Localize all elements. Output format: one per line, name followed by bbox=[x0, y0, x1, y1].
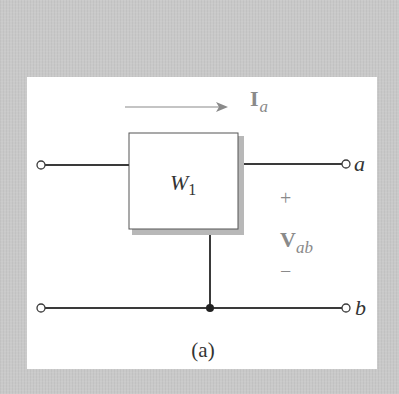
terminal-input-top bbox=[37, 161, 45, 169]
figure-caption: (a) bbox=[191, 338, 214, 362]
terminal-b bbox=[342, 304, 350, 312]
voltage-plus: + bbox=[280, 187, 291, 209]
terminal-input-bottom bbox=[37, 304, 45, 312]
terminal-a-label: a bbox=[354, 151, 365, 176]
voltage-minus: − bbox=[280, 260, 291, 282]
current-label: Ia bbox=[250, 86, 268, 116]
voltage-label: Vab bbox=[280, 227, 313, 257]
junction-dot bbox=[206, 304, 214, 312]
terminal-b-label: b bbox=[355, 295, 366, 320]
terminal-a bbox=[342, 160, 350, 168]
circuit-diagram: Ia W1 a b + Vab − (a) bbox=[0, 0, 399, 394]
current-arrow-icon bbox=[125, 102, 228, 112]
